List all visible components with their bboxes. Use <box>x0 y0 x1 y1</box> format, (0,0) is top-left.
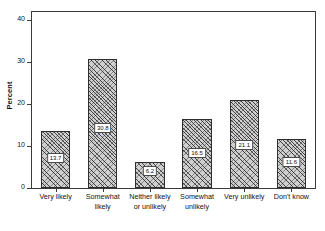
bar: 6.2 <box>135 162 164 188</box>
bar: 13.7 <box>41 131 70 188</box>
x-category-label-line: Very unlikely <box>218 192 271 202</box>
x-category-label-line: Somewhat <box>76 192 129 202</box>
y-tick-mark <box>27 104 32 105</box>
y-tick-mark <box>27 146 32 147</box>
y-tick-mark <box>27 62 32 63</box>
bar: 11.6 <box>277 139 306 188</box>
bar: 16.5 <box>182 119 211 188</box>
bar-value-label: 30.8 <box>94 123 112 133</box>
x-category-label-line: Neither likely <box>123 192 176 202</box>
x-category-label-line: unlikely <box>171 202 224 212</box>
bar-value-label: 21.1 <box>235 140 253 150</box>
y-tick-label: 30 <box>17 57 25 64</box>
y-tick-label: 10 <box>17 141 25 148</box>
y-tick-label: 40 <box>17 15 25 22</box>
x-category-label: Very likely <box>29 192 82 202</box>
y-tick-label: 0 <box>21 183 25 190</box>
plot-frame: 01020304013.730.86.216.521.111.6 <box>31 11 316 189</box>
x-axis-category-labels: Very likelySomewhatlikelyNeither likelyo… <box>31 192 316 230</box>
y-axis-title: Percent <box>2 0 16 190</box>
x-category-label: Neither likelyor unlikely <box>123 192 176 211</box>
x-category-label-line: likely <box>76 202 129 212</box>
y-tick-mark <box>27 188 32 189</box>
bar-value-label: 6.2 <box>143 166 157 176</box>
x-category-label-line: Somewhat <box>171 192 224 202</box>
x-category-label: Somewhatunlikely <box>171 192 224 211</box>
x-category-label-line: or unlikely <box>123 202 176 212</box>
y-tick-mark <box>27 20 32 21</box>
x-category-label-line: Don't know <box>265 192 318 202</box>
y-axis-title-text: Percent <box>5 81 14 109</box>
bar: 30.8 <box>88 59 117 188</box>
bar-chart: Percent 01020304013.730.86.216.521.111.6… <box>0 0 325 231</box>
bar-value-label: 16.5 <box>188 148 206 158</box>
x-category-label: Somewhatlikely <box>76 192 129 211</box>
bar: 21.1 <box>230 100 259 188</box>
x-category-label: Don't know <box>265 192 318 202</box>
y-tick-label: 20 <box>17 99 25 106</box>
plot-area: 01020304013.730.86.216.521.111.6 <box>32 12 315 188</box>
bar-value-label: 13.7 <box>47 153 65 163</box>
bar-value-label: 11.6 <box>283 157 300 167</box>
x-category-label-line: Very likely <box>29 192 82 202</box>
x-category-label: Very unlikely <box>218 192 271 202</box>
